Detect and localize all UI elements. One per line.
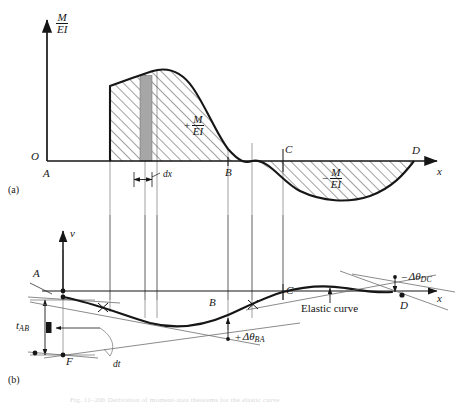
angle-dc-subscript: DC bbox=[421, 275, 433, 284]
positive-moment-area bbox=[100, 55, 270, 170]
figure-caption: Fig. 11–20b Derivation of moment-area th… bbox=[70, 396, 280, 404]
figure-canvas bbox=[0, 0, 459, 407]
origin-label: O bbox=[31, 151, 39, 162]
positive-area-sign: + bbox=[184, 120, 192, 131]
panel-b-label: (b) bbox=[8, 375, 20, 385]
point-label-b-panel-a: B bbox=[225, 167, 232, 178]
angle-dc-symbol: Δθ bbox=[409, 270, 421, 282]
y-axis-denominator: EI bbox=[56, 23, 68, 35]
positive-area-numerator: M bbox=[192, 114, 204, 125]
y-axis-numerator: M bbox=[56, 12, 68, 23]
point-d-marker bbox=[399, 292, 404, 297]
moment-area-figure: M EI O A B C D x dx + M EI − M EI (a) v … bbox=[0, 0, 459, 407]
angle-ba-sign: + bbox=[235, 332, 243, 343]
dx-label: dx bbox=[163, 170, 172, 180]
panel-a-label: (a) bbox=[8, 185, 19, 195]
dt-leader-tail bbox=[104, 349, 110, 356]
point-label-d-panel-a: D bbox=[412, 145, 420, 156]
y-axis-label-panel-b: v bbox=[70, 228, 75, 239]
angle-ba-subscript: BA bbox=[255, 335, 265, 344]
x-axis-label-panel-a: x bbox=[437, 166, 442, 177]
angle-dc-measure bbox=[393, 275, 397, 292]
point-label-c-panel-a: C bbox=[285, 144, 292, 155]
angle-ba-symbol: Δθ bbox=[243, 330, 255, 342]
tangent-cross-marks bbox=[98, 300, 258, 312]
x-axis-label-panel-b: x bbox=[437, 293, 442, 304]
negative-area-numerator: M bbox=[330, 167, 342, 178]
negative-area-label: − M EI bbox=[322, 167, 342, 190]
point-label-f: F bbox=[66, 356, 73, 367]
angle-ba-label: +ΔθBA bbox=[235, 331, 265, 344]
negative-area-sign: − bbox=[322, 173, 330, 184]
dx-dimension bbox=[134, 172, 160, 187]
dt-segment bbox=[46, 322, 52, 333]
y-axis-label-panel-a: M EI bbox=[56, 12, 68, 35]
positive-area-label: + M EI bbox=[184, 114, 204, 137]
angle-dc-sign: − bbox=[401, 272, 409, 283]
differential-strip-dx bbox=[140, 76, 152, 162]
elastic-curve-label: Elastic curve bbox=[301, 303, 358, 314]
angle-dc-label: −ΔθDC bbox=[401, 271, 432, 284]
negative-area-denominator: EI bbox=[330, 178, 342, 190]
angle-ba-measure bbox=[226, 318, 230, 341]
point-label-c-panel-b: C bbox=[286, 285, 293, 296]
point-label-a-panel-b: A bbox=[33, 268, 40, 279]
point-label-d-panel-b: D bbox=[400, 300, 408, 311]
tab-deviation-label: tAB bbox=[16, 320, 29, 333]
point-label-b-panel-b: B bbox=[209, 297, 216, 308]
point-label-a-panel-a: A bbox=[43, 168, 50, 179]
positive-area-denominator: EI bbox=[192, 125, 204, 137]
tab-subscript: AB bbox=[19, 324, 29, 333]
dt-label: dt bbox=[113, 360, 120, 370]
